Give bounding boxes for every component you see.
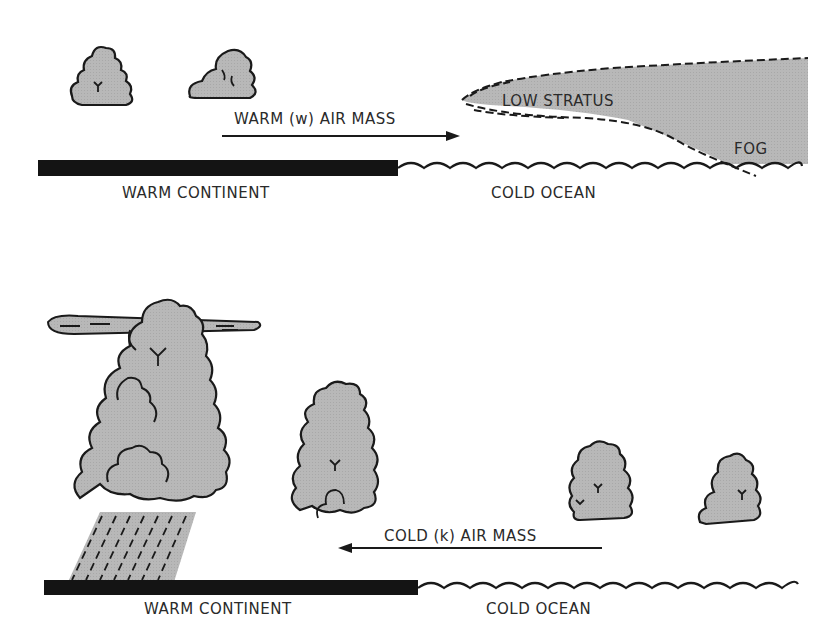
warm-continent-label: WARM CONTINENT <box>144 600 292 618</box>
warm-air-arrow <box>222 131 460 141</box>
stratus-fog-layer <box>462 58 808 176</box>
rain-shaft <box>68 512 196 582</box>
cold-ocean-label: COLD OCEAN <box>491 184 596 202</box>
cumulus-cloud-icon <box>699 454 761 524</box>
warm-continent-land <box>44 580 418 595</box>
low-stratus-label: LOW STRATUS <box>502 92 614 110</box>
cold-ocean-label: COLD OCEAN <box>486 600 591 618</box>
warm-continent-label: WARM CONTINENT <box>122 184 270 202</box>
cumulus-cloud-icon <box>71 47 132 105</box>
towering-cumulus-cloud-icon <box>292 382 378 518</box>
cold-air-mass-label: COLD (k) AIR MASS <box>384 527 537 545</box>
fog-label: FOG <box>734 140 768 158</box>
cumulus-cloud-icon <box>569 441 632 520</box>
warm-continent-land <box>38 160 398 176</box>
cold-ocean-waves <box>418 582 798 588</box>
cumulus-cloud-icon <box>189 50 255 98</box>
warm-air-mass-label: WARM (w) AIR MASS <box>234 110 396 128</box>
